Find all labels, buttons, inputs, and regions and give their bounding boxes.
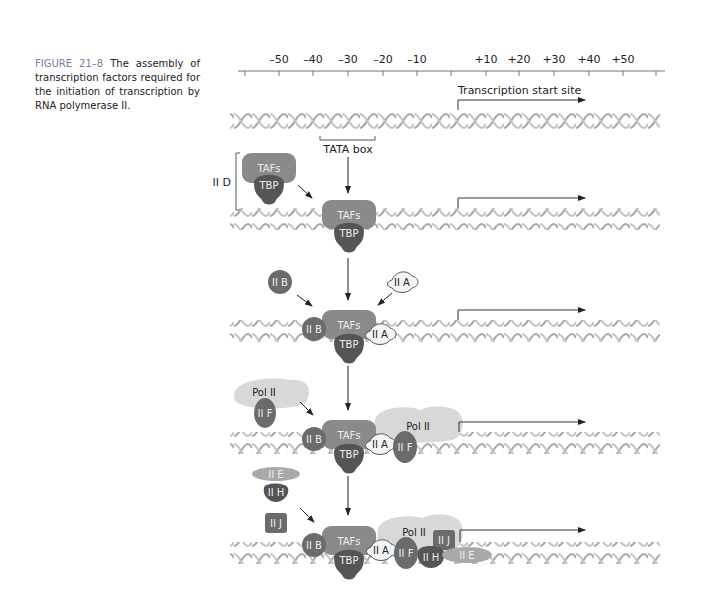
- bind-arrow: [300, 402, 313, 415]
- tata-box-bracket: [320, 136, 375, 140]
- svg-text:II H: II H: [268, 487, 285, 498]
- dna-helix: [230, 112, 660, 134]
- svg-text:TBP: TBP: [339, 339, 359, 350]
- ruler-tick-label: +10: [474, 53, 497, 66]
- dna-row-5: Pol II TAFs II B TBP II A II F II J II H…: [230, 515, 660, 580]
- start-site-arrow: [458, 198, 585, 208]
- svg-text:II J: II J: [270, 518, 282, 529]
- svg-text:II E: II E: [268, 469, 283, 480]
- bind-arrow: [300, 508, 314, 522]
- svg-text:II F: II F: [399, 548, 414, 559]
- svg-text:II A: II A: [373, 545, 389, 556]
- dna-helix: [230, 208, 660, 230]
- ruler-tick-label: +30: [542, 53, 565, 66]
- tata-box-label: TATA box: [322, 143, 373, 156]
- start-site-arrow: [458, 310, 585, 320]
- svg-text:Pol II: Pol II: [402, 527, 426, 538]
- start-site-arrow: [459, 422, 585, 432]
- dna-row-2: TAFs TBP: [230, 198, 660, 300]
- svg-text:TAFs: TAFs: [336, 536, 360, 547]
- svg-text:TBP: TBP: [339, 228, 359, 239]
- svg-text:II F: II F: [398, 442, 413, 453]
- svg-text:TAFs: TAFs: [336, 320, 360, 331]
- svg-text:Pol II: Pol II: [252, 387, 276, 398]
- ruler-tick-label: –40: [303, 53, 323, 66]
- svg-text:TBP: TBP: [339, 555, 359, 566]
- start-site-label: Transcription start site: [457, 84, 581, 97]
- ruler-tick-label: –20: [373, 53, 393, 66]
- start-site-arrow: [460, 530, 585, 542]
- svg-text:II A: II A: [394, 277, 410, 288]
- position-ruler: –50 –40 –30 –20 –10 +10 +20 +30 +40 +50: [238, 53, 665, 76]
- free-tfiid: II D TAFs TBP: [213, 153, 312, 210]
- dna-row-4: Pol II TAFs II B TBP II A II F: [230, 407, 660, 515]
- iid-bracket: [236, 153, 240, 210]
- svg-text:II E: II E: [459, 550, 474, 561]
- bind-arrow: [298, 185, 312, 198]
- ruler-tick-label: –30: [338, 53, 358, 66]
- svg-text:II B: II B: [272, 277, 288, 288]
- svg-text:II A: II A: [372, 329, 388, 340]
- ruler-tick-label: –50: [269, 53, 289, 66]
- svg-text:II B: II B: [306, 434, 322, 445]
- transcription-assembly-diagram: –50 –40 –30 –20 –10 +10 +20 +30 +40 +50 …: [0, 0, 706, 602]
- svg-text:TAFs: TAFs: [336, 430, 360, 441]
- ruler-tick-label: –10: [407, 53, 427, 66]
- svg-text:TAFs: TAFs: [256, 163, 280, 174]
- svg-text:II F: II F: [258, 408, 273, 419]
- dna-helix: [230, 320, 660, 342]
- iid-label: II D: [213, 176, 231, 189]
- svg-text:TBP: TBP: [339, 449, 359, 460]
- ruler-tick-label: +40: [577, 53, 600, 66]
- start-site-arrow: [458, 100, 585, 110]
- bind-arrow: [378, 293, 392, 305]
- svg-text:TBP: TBP: [259, 180, 279, 191]
- ruler-tick-label: +20: [507, 53, 530, 66]
- svg-text:II B: II B: [306, 540, 322, 551]
- svg-text:II A: II A: [372, 439, 388, 450]
- ruler-tick-label: +50: [611, 53, 634, 66]
- svg-text:II H: II H: [423, 552, 440, 563]
- svg-text:Pol II: Pol II: [406, 421, 430, 432]
- svg-text:TAFs: TAFs: [336, 210, 360, 221]
- svg-text:II J: II J: [438, 535, 450, 546]
- bind-arrow: [297, 295, 312, 306]
- svg-text:II B: II B: [306, 324, 322, 335]
